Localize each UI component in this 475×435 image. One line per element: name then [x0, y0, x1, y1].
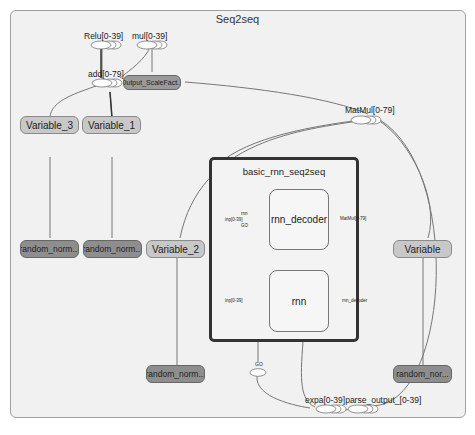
variable-2-node[interactable]: Variable_2 — [146, 240, 205, 258]
add-node[interactable] — [91, 78, 123, 88]
random-normal-node-3[interactable]: random_norm... — [146, 365, 205, 383]
decoder-output: MatMul[0-79] — [340, 216, 366, 221]
decoder-input-inp: inp[0-39] — [225, 217, 243, 222]
variable-node[interactable]: Variable — [393, 240, 452, 258]
rnn-decoder-node[interactable]: rnn_decoder — [269, 189, 329, 250]
go-label: GO — [255, 361, 263, 367]
relu-node[interactable] — [90, 40, 122, 50]
group-title: basic_rnn_seq2seq — [212, 166, 356, 177]
decoder-input-rnn: rnn — [241, 211, 248, 216]
rnn-node[interactable]: rnn — [269, 270, 329, 332]
variable-3-node[interactable]: Variable_3 — [20, 116, 79, 134]
mul-node[interactable] — [136, 40, 168, 50]
rnn-output: rnn_decoder — [342, 298, 367, 303]
matmul-node[interactable] — [350, 115, 382, 125]
parse-output-node[interactable] — [347, 404, 379, 414]
random-normal-node-2[interactable]: random_norm... — [83, 240, 142, 258]
go-node[interactable] — [249, 368, 267, 377]
random-normal-node-4[interactable]: random_nor... — [393, 365, 452, 383]
expand-dims-node[interactable] — [315, 404, 347, 414]
output-scale-factor-node[interactable]: Output_ScaleFact... — [123, 75, 181, 90]
decoder-input-go: GO — [241, 223, 248, 228]
random-normal-node-1[interactable]: random_norm... — [20, 240, 79, 258]
rnn-input-inp: inp[0-39] — [225, 298, 243, 303]
variable-1-node[interactable]: Variable_1 — [82, 116, 141, 134]
matmul-label: MatMul[0-79] — [345, 105, 395, 115]
basic-rnn-seq2seq-group[interactable]: basic_rnn_seq2seq rnn inp[0-39] GO rnn_d… — [209, 157, 359, 342]
